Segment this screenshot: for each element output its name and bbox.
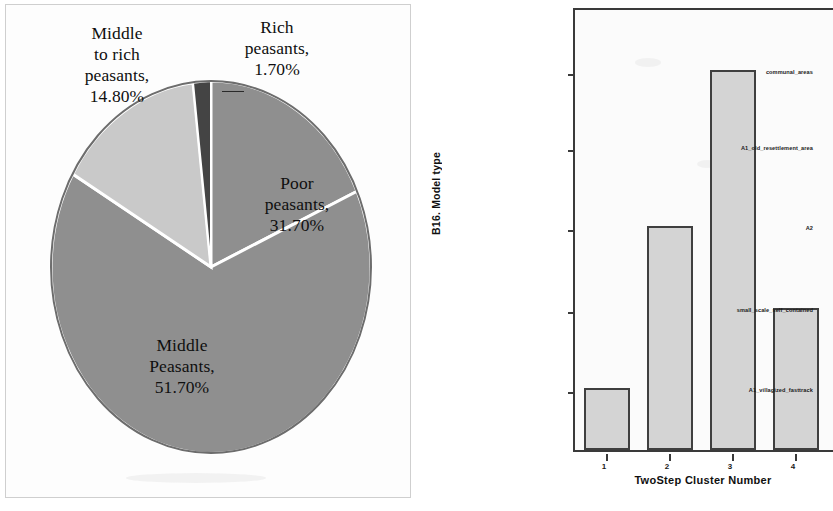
y-tick-label-a1-old-resettlement-area: A1_old_resettlement_area	[671, 145, 813, 151]
pie-label-middle-to-rich-peasants: Middle to rich peasants, 14.80%	[54, 23, 180, 107]
x-tick-label-2: 2	[665, 462, 669, 471]
y-tick-mark	[568, 74, 575, 76]
pie-chart-figure: Middle to rich peasants, 14.80% Rich pea…	[5, 4, 411, 498]
y-tick-mark	[568, 230, 575, 232]
x-tick-label-4: 4	[791, 462, 795, 471]
y-tick-mark	[568, 150, 575, 152]
bar-cluster-2	[647, 226, 693, 450]
bar-chart-figure: B16. Model type	[424, 0, 813, 511]
rich-peasants-leader-line	[222, 91, 244, 92]
bar-chart-y-axis-title: B16. Model type	[430, 152, 442, 235]
y-tick-mark	[568, 392, 575, 394]
pie-label-poor-peasants: Poor peasants, 31.70%	[238, 173, 356, 236]
y-tick-label-small-scale-self-contained: small_scale_self_contained	[671, 307, 813, 313]
x-tick-mark	[732, 454, 734, 461]
bar-cluster-4	[773, 308, 819, 450]
x-tick-mark	[669, 454, 671, 461]
scan-artifact	[635, 58, 661, 67]
x-tick-mark	[795, 454, 797, 461]
pie-chart-graphic	[46, 71, 376, 463]
pie-svg	[46, 71, 376, 463]
y-tick-label-a1-villagized-fasttrack: A1_villagized_fasttrack	[671, 387, 813, 393]
y-tick-mark	[568, 312, 575, 314]
bar-cluster-1	[584, 388, 630, 450]
bar-chart-x-axis-title: TwoStep Cluster Number	[573, 474, 833, 486]
x-tick-mark	[606, 454, 608, 461]
y-tick-label-communal-areas: communal_areas	[671, 69, 813, 75]
x-tick-label-3: 3	[728, 462, 732, 471]
scan-artifact	[126, 473, 266, 483]
x-tick-label-1: 1	[602, 462, 606, 471]
y-tick-label-a2: A2	[671, 225, 813, 231]
bar-cluster-3	[710, 70, 756, 450]
pie-label-middle-peasants: Middle Peasants, 51.70%	[118, 335, 246, 398]
pie-label-rich-peasants: Rich peasants, 1.70%	[222, 17, 332, 80]
